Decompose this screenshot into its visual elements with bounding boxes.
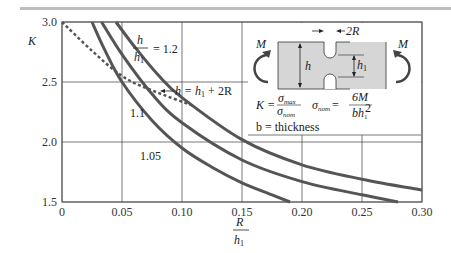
x-tick-label: 0.10 — [172, 205, 193, 219]
thickness-note: b = thickness — [256, 120, 320, 134]
curve-label-1-1: 1.1 — [130, 106, 145, 120]
ratio-label-value: = 1.2 — [153, 42, 178, 56]
x-tick-label: 0.25 — [352, 205, 373, 219]
curve-label-1-05: 1.05 — [140, 149, 161, 163]
moment-right: M — [397, 37, 409, 51]
dashed-curve-label: h = h1 + 2R — [175, 84, 232, 99]
x-tick-label: 0.20 — [292, 205, 313, 219]
y-tick-label: 2.5 — [42, 75, 57, 89]
notch-width-label: 2R — [346, 24, 360, 38]
x-tick-label: 0 — [59, 205, 65, 219]
y-tick-label: 2.0 — [42, 135, 57, 149]
svg-text:2: 2 — [365, 101, 371, 115]
x-axis-title-num: R — [235, 215, 244, 229]
x-tick-label: 0.30 — [412, 205, 433, 219]
moment-left: M — [255, 37, 267, 51]
h-label: h — [305, 59, 311, 73]
y-tick-label: 1.5 — [42, 195, 57, 209]
y-axis-title: K — [27, 34, 37, 48]
ratio-label-den: h1 — [134, 50, 144, 65]
formula-k: K = — [255, 98, 275, 112]
x-tick-label: 0.05 — [112, 205, 133, 219]
y-tick-label: 3.0 — [42, 15, 57, 29]
ratio-label-num: h — [137, 33, 143, 47]
x-axis-title-den: h1 — [234, 233, 244, 248]
chart: 00.050.100.150.200.250.301.52.02.53.0 K … — [0, 0, 451, 253]
